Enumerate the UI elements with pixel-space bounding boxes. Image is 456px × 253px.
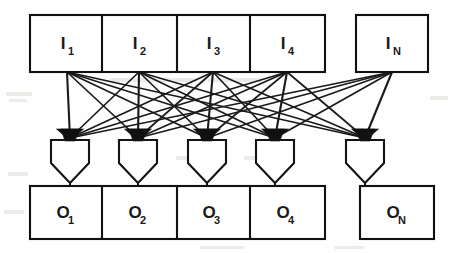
edge-i2-to-f2: [138, 72, 139, 138]
diagram-canvas: I1I2I3I4INO1O2O3O4ON: [0, 0, 456, 253]
funnel-f4: [256, 140, 294, 183]
edge-in-to-f5: [365, 72, 392, 138]
edge-i1-to-f1: [67, 72, 70, 138]
funnel-f2: [119, 140, 157, 183]
crossbar-diagram: I1I2I3I4INO1O2O3O4ON: [0, 0, 456, 253]
funnel-f1: [51, 140, 89, 183]
svg-text:2: 2: [140, 45, 146, 57]
svg-text:1: 1: [68, 45, 74, 57]
svg-text:1: 1: [68, 214, 74, 226]
funnel-layer: [51, 140, 384, 183]
input-row-layer: [30, 15, 428, 72]
funnel-f3: [188, 140, 226, 183]
svg-text:I: I: [61, 34, 66, 53]
svg-text:I: I: [281, 34, 286, 53]
svg-text:2: 2: [140, 214, 146, 226]
svg-text:4: 4: [288, 214, 295, 226]
output-row-layer: [30, 186, 434, 239]
svg-text:I: I: [133, 34, 138, 53]
svg-text:N: N: [398, 214, 406, 226]
svg-text:I: I: [207, 34, 212, 53]
svg-text:3: 3: [214, 214, 220, 226]
input-node-in: [356, 15, 428, 72]
svg-text:I: I: [386, 34, 391, 53]
svg-text:4: 4: [288, 45, 295, 57]
svg-text:N: N: [393, 45, 401, 57]
edge-i4-to-f4: [275, 72, 287, 138]
funnel-f5: [346, 140, 384, 183]
svg-text:3: 3: [214, 45, 220, 57]
